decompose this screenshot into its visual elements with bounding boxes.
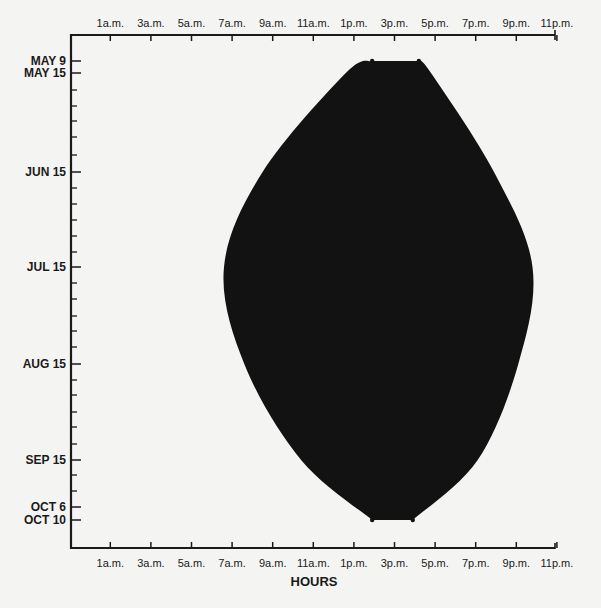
x-tick-label: 1p.m. [340,557,368,569]
x-tick-label: 5p.m. [421,17,449,29]
x-tick-label: 11a.m. [297,557,330,569]
y-tick-label: JUN 15 [25,165,66,179]
y-tick-label: JUL 15 [27,260,66,274]
x-tick-label: 1a.m. [97,557,125,569]
y-tick-label: AUG 15 [23,357,67,371]
x-tick-label: 11a.m. [297,17,330,29]
vertex-marker [370,518,374,522]
x-tick-label: 3a.m. [137,17,165,29]
x-tick-label: 7a.m. [218,557,246,569]
y-tick-label: MAY 15 [24,66,66,80]
x-tick-label: 7p.m. [462,557,490,569]
y-tick-label: OCT 6 [31,500,67,514]
x-tick-label: 5a.m. [178,17,206,29]
x-tick-label: 11p.m. [540,17,573,29]
y-tick-label: OCT 10 [24,513,66,527]
y-tick-label: SEP 15 [26,453,67,467]
y-ticks [71,61,81,520]
activity-area [223,61,533,520]
vertex-marker [411,518,415,522]
x-tick-label: 11p.m. [540,557,573,569]
x-tick-label: 1a.m. [97,17,125,29]
y-tick-labels: MAY 9MAY 15JUN 15JUL 15AUG 15SEP 15OCT 6… [23,54,67,527]
top-x-tick-labels: 1a.m.3a.m.5a.m.7a.m.9a.m.11a.m.1p.m.3p.m… [97,17,574,29]
x-tick-label: 9p.m. [503,557,531,569]
x-tick-label: 7a.m. [218,17,246,29]
x-tick-label: 9p.m. [503,17,531,29]
x-tick-label: 3p.m. [381,557,409,569]
bottom-x-tick-labels: 1a.m.3a.m.5a.m.7a.m.9a.m.11a.m.1p.m.3p.m… [97,557,574,569]
x-tick-label: 3a.m. [137,557,165,569]
chart: 1a.m.3a.m.5a.m.7a.m.9a.m.11a.m.1p.m.3p.m… [0,0,601,608]
vertex-marker [370,59,374,63]
x-tick-label: 9a.m. [259,17,287,29]
x-tick-label: 5p.m. [421,557,449,569]
x-tick-label: 1p.m. [340,17,368,29]
x-tick-label: 3p.m. [381,17,409,29]
x-tick-label: 5a.m. [178,557,206,569]
x-tick-label: 9a.m. [259,557,287,569]
vertex-marker [417,59,421,63]
x-tick-label: 7p.m. [462,17,490,29]
x-axis-title: HOURS [291,574,338,589]
